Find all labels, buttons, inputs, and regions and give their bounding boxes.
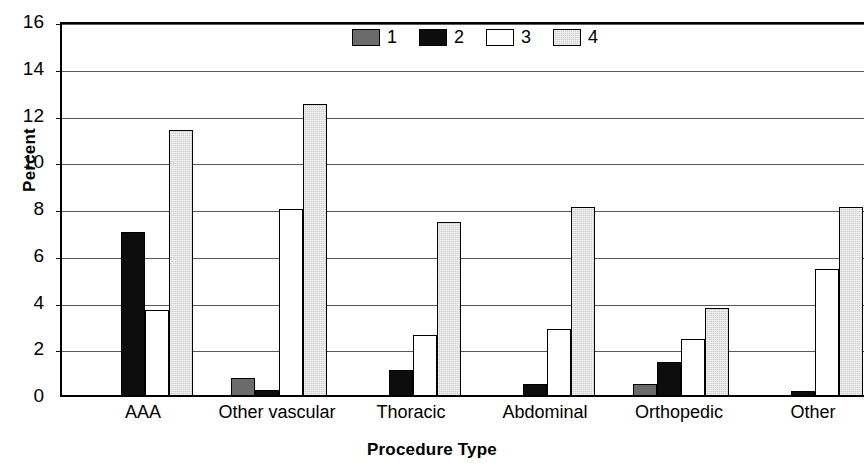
bar [169, 130, 193, 396]
legend-label: 3 [521, 28, 531, 46]
legend-swatch-series-2 [419, 29, 447, 46]
bar [413, 335, 437, 396]
x-axis-tick-label: Other vascular [218, 401, 335, 423]
bar [279, 209, 303, 396]
bar [547, 329, 571, 396]
bar [705, 308, 729, 396]
y-axis-tick-labels: 1614121086420 [0, 0, 52, 464]
legend-item[interactable]: 1 [352, 28, 397, 46]
bar [657, 362, 681, 396]
bar-group [330, 24, 464, 396]
legend-label: 4 [588, 28, 598, 46]
y-axis-tick-label: 10 [23, 152, 44, 171]
bar-groups [62, 24, 864, 396]
plot-area [60, 22, 864, 396]
bar [437, 222, 461, 396]
bar-group [62, 24, 196, 396]
legend-label: 2 [454, 28, 464, 46]
legend-swatch-series-1 [352, 29, 380, 46]
x-axis-tick-label: Orthopedic [635, 401, 723, 423]
y-axis-tick-label: 16 [23, 12, 44, 31]
y-axis-tick-label: 4 [33, 293, 44, 312]
y-axis-tick-label: 0 [33, 386, 44, 405]
x-axis-tick-labels: AAAOther vascularThoracicAbdominalOrthop… [60, 401, 864, 431]
bar-group [196, 24, 330, 396]
y-axis-tick-label: 6 [33, 246, 44, 265]
bar [231, 378, 255, 396]
bar-group [732, 24, 864, 396]
x-axis-tick-label: Abdominal [502, 401, 587, 423]
legend-swatch-series-3 [486, 29, 514, 46]
legend-label: 1 [387, 28, 397, 46]
legend-item[interactable]: 4 [553, 28, 598, 46]
bar-group [598, 24, 732, 396]
y-axis-tick-label: 2 [33, 339, 44, 358]
bar-group [464, 24, 598, 396]
bar [681, 339, 705, 396]
bar [303, 104, 327, 396]
bar [145, 310, 169, 396]
chart-legend: 1234 [352, 28, 598, 46]
x-axis-title: Procedure Type [0, 440, 864, 460]
bar [839, 207, 863, 396]
legend-item[interactable]: 2 [419, 28, 464, 46]
y-axis-tick-label: 12 [23, 106, 44, 125]
legend-item[interactable]: 3 [486, 28, 531, 46]
bar [815, 269, 839, 396]
y-axis-tick-label: 14 [23, 59, 44, 78]
x-axis-line [60, 395, 864, 397]
bar [571, 207, 595, 396]
x-axis-tick-label: Thoracic [376, 401, 445, 423]
bar [389, 370, 413, 396]
x-axis-tick-label: AAA [125, 401, 161, 423]
legend-swatch-series-4 [553, 29, 581, 46]
y-axis-tick-label: 8 [33, 199, 44, 218]
bar-chart: Percent 1614121086420 1234 AAAOther vasc… [0, 0, 864, 464]
bar [121, 232, 145, 396]
x-axis-tick-label: Other [790, 401, 835, 423]
